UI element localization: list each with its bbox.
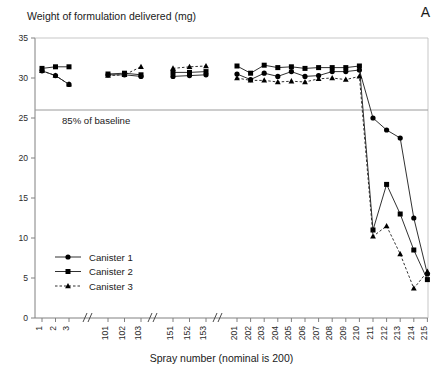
data-point-canister-2 <box>303 66 308 71</box>
y-tick-label: 20 <box>18 153 28 163</box>
x-tick-label: 205 <box>283 326 293 341</box>
data-point-canister-3 <box>397 251 403 256</box>
data-point-canister-2 <box>289 64 294 69</box>
x-tick-label: 202 <box>243 326 253 341</box>
series-line-canister-2 <box>237 65 427 279</box>
x-tick-label: 102 <box>117 326 127 341</box>
y-tick-label: 30 <box>18 73 28 83</box>
data-point-canister-2 <box>425 277 430 282</box>
x-tick-label: 206 <box>297 326 307 341</box>
y-tick-label: 5 <box>23 273 28 283</box>
data-point-canister-2 <box>53 64 58 69</box>
x-tick-label: 211 <box>365 326 375 340</box>
data-point-canister-3 <box>289 78 295 83</box>
legend-label-1: Canister 2 <box>89 266 133 277</box>
x-tick-label: 201 <box>229 326 239 341</box>
data-point-canister-3 <box>261 77 267 82</box>
data-point-canister-1 <box>398 135 403 140</box>
data-point-canister-1 <box>302 74 307 79</box>
x-tick-label: 1 <box>34 326 44 331</box>
series-line-canister-3 <box>237 76 427 288</box>
x-tick-label: 213 <box>392 326 402 341</box>
data-point-canister-2 <box>248 71 253 76</box>
y-tick-label: 35 <box>18 33 28 43</box>
legend-marker-1 <box>66 269 71 274</box>
legend-label-2: Canister 3 <box>89 281 133 292</box>
data-point-canister-1 <box>370 115 375 120</box>
plot-area: 0510152025303512310110210315115215320120… <box>0 0 443 376</box>
data-point-canister-2 <box>330 65 335 70</box>
data-point-canister-2 <box>187 70 192 75</box>
data-point-canister-2 <box>171 70 176 75</box>
data-point-canister-3 <box>203 63 209 68</box>
x-axis-title: Spray number (nominal is 200) <box>150 352 294 364</box>
data-point-canister-2 <box>262 63 267 68</box>
chart-figure: Weight of formulation delivered (mg) A S… <box>0 0 443 376</box>
x-tick-label: 3 <box>61 326 71 331</box>
x-tick-label: 209 <box>338 326 348 341</box>
data-point-canister-3 <box>302 79 308 84</box>
data-point-canister-3 <box>343 77 349 82</box>
y-tick-label: 25 <box>18 113 28 123</box>
data-point-canister-3 <box>384 223 390 228</box>
y-tick-label: 15 <box>18 193 28 203</box>
chart-title: Weight of formulation delivered (mg) <box>27 10 196 22</box>
x-tick-label: 207 <box>311 326 321 341</box>
data-point-canister-2 <box>275 65 280 70</box>
y-tick-label: 0 <box>23 313 28 323</box>
data-point-canister-2 <box>235 64 240 69</box>
data-point-canister-1 <box>289 69 294 74</box>
x-tick-label: 208 <box>324 326 334 341</box>
data-point-canister-2 <box>139 72 144 77</box>
panel-label: A <box>421 4 430 20</box>
data-point-canister-3 <box>275 79 281 84</box>
x-tick-label: 2 <box>48 326 58 331</box>
baseline-annotation-label: 85% of baseline <box>62 115 130 126</box>
x-tick-label: 212 <box>379 326 389 341</box>
data-point-canister-2 <box>67 64 72 69</box>
data-point-canister-2 <box>357 64 362 69</box>
x-tick-label: 151 <box>165 326 175 341</box>
data-point-canister-2 <box>384 182 389 187</box>
x-tick-label: 203 <box>256 326 266 341</box>
data-point-canister-3 <box>425 269 431 274</box>
legend-label-0: Canister 1 <box>89 252 133 263</box>
legend-marker-0 <box>65 254 70 259</box>
data-point-canister-1 <box>275 74 280 79</box>
x-tick-label: 152 <box>182 326 192 341</box>
x-tick-label: 153 <box>198 326 208 341</box>
x-tick-label: 215 <box>419 326 429 341</box>
data-point-canister-2 <box>204 69 209 74</box>
data-point-canister-2 <box>343 65 348 70</box>
data-point-canister-3 <box>411 285 417 290</box>
data-point-canister-3 <box>138 64 144 69</box>
x-tick-label: 101 <box>100 326 110 341</box>
data-point-canister-3 <box>370 233 376 238</box>
x-tick-label: 210 <box>351 326 361 341</box>
series-line-canister-1 <box>237 70 427 274</box>
x-tick-label: 214 <box>406 326 416 341</box>
data-point-canister-1 <box>262 71 267 76</box>
data-point-canister-2 <box>398 212 403 217</box>
data-point-canister-3 <box>234 75 240 80</box>
data-point-canister-2 <box>316 65 321 70</box>
y-tick-label: 10 <box>18 233 28 243</box>
data-point-canister-3 <box>329 75 335 80</box>
data-point-canister-2 <box>411 248 416 253</box>
data-point-canister-1 <box>411 215 416 220</box>
x-tick-label: 204 <box>270 326 280 341</box>
data-point-canister-1 <box>384 127 389 132</box>
x-tick-label: 103 <box>133 326 143 341</box>
